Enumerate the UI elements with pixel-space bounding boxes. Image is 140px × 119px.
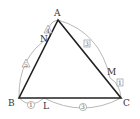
- svg-text:3: 3: [85, 40, 89, 47]
- label-l: L: [43, 101, 49, 111]
- ratio-nb-marker: 5: [22, 59, 30, 68]
- triangle-abc: [19, 20, 121, 98]
- diagram-canvas: A B C L M N 1 3 3 1 4 5: [0, 0, 140, 119]
- triangle-diagram: A B C L M N 1 3 3 1 4 5: [0, 0, 140, 119]
- label-n: N: [40, 34, 48, 44]
- ratio-cm-marker: 1: [117, 79, 123, 86]
- ratio-bl-marker: 1: [27, 101, 34, 109]
- label-m: M: [107, 67, 116, 77]
- svg-text:4: 4: [46, 27, 50, 34]
- ratio-lc-marker: 3: [79, 103, 86, 111]
- label-b: B: [8, 98, 15, 108]
- svg-text:5: 5: [24, 61, 28, 68]
- label-c: C: [123, 98, 130, 108]
- ratio-ma-marker: 3: [84, 40, 90, 47]
- svg-text:1: 1: [29, 101, 33, 108]
- svg-text:3: 3: [81, 103, 85, 110]
- label-a: A: [53, 8, 61, 18]
- svg-text:1: 1: [118, 79, 122, 86]
- ratio-an-marker: 4: [44, 25, 52, 34]
